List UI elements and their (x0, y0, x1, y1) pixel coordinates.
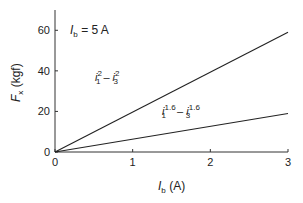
x-label-unit: (A) (166, 179, 185, 193)
s1-minus: – (100, 71, 112, 83)
ib-value: = 5 A (78, 23, 109, 37)
y-label-sub: x (16, 91, 25, 95)
y-axis-label: Fx (kgf) (10, 63, 25, 102)
s2-minus: – (174, 105, 186, 117)
series-1-label: i21 – i23 (95, 70, 118, 86)
s1-b-sub: 3 (114, 77, 118, 86)
y-tick-label: 60 (38, 24, 50, 36)
y-label-main: F (9, 95, 23, 102)
x-tick-label: 2 (207, 156, 213, 168)
x-axis-label: Ib (A) (158, 180, 185, 195)
s2-a-sub: 1 (162, 111, 166, 120)
series-2-label: i1.61 – i1.63 (162, 104, 190, 120)
y-tick-label: 40 (38, 65, 50, 77)
ib-annotation: Ib = 5 A (70, 24, 109, 39)
y-tick-label: 20 (38, 105, 50, 117)
y-tick-label: 0 (44, 146, 50, 158)
x-tick-label: 1 (130, 156, 136, 168)
s2-b-sub: 3 (186, 111, 190, 120)
x-tick-label: 3 (285, 156, 291, 168)
chart-canvas: 02040600123 (0, 0, 303, 203)
s2-b-sup: 1.6 (189, 103, 200, 112)
data-lines (55, 32, 288, 152)
y-label-unit: (kgf) (9, 63, 23, 90)
series-line-1 (55, 32, 288, 152)
x-tick-label: 0 (52, 156, 58, 168)
